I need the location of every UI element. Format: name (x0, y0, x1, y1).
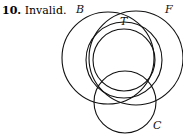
circle-outer-t (86, 22, 162, 98)
label-f: F (165, 3, 173, 16)
circle-c (94, 71, 156, 133)
label-c: C (153, 119, 161, 132)
label-b: B (76, 3, 84, 16)
venn-diagram (0, 0, 183, 134)
label-t: T (120, 15, 127, 28)
circle-f (89, 11, 183, 105)
